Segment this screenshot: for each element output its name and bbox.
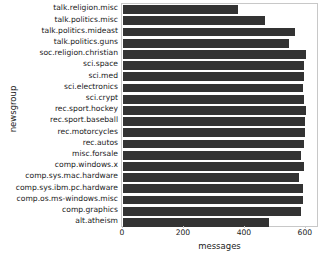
bar <box>123 84 303 93</box>
y-axis-tick-label: talk.politics.mideast <box>3 27 121 35</box>
x-axis-tick-label: 600 <box>298 228 313 237</box>
x-axis-tick-mark <box>305 226 306 228</box>
y-axis-tick-label: comp.sys.mac.hardware <box>3 172 121 180</box>
y-axis-tick-label: talk.politics.misc <box>3 16 121 24</box>
y-axis-tick-label: rec.sport.baseball <box>3 116 121 124</box>
x-axis-tick-labels: 0200400600 <box>0 228 326 242</box>
bar-row <box>122 162 319 171</box>
bar-row <box>122 140 319 149</box>
bar <box>123 106 306 115</box>
bar <box>123 61 304 70</box>
x-axis-tick-label: 400 <box>237 228 252 237</box>
bar <box>123 5 238 14</box>
bar <box>123 16 265 25</box>
x-axis-tick-label: 200 <box>176 228 191 237</box>
y-axis-tick-label: comp.os.ms-windows.misc <box>3 195 121 203</box>
bar-series <box>122 4 317 226</box>
y-axis-tick-labels: talk.religion.misctalk.politics.misctalk… <box>0 3 121 227</box>
bar <box>123 50 306 59</box>
x-axis-title: messages <box>121 241 318 251</box>
bar-row <box>122 95 319 104</box>
bar <box>123 207 301 216</box>
y-axis-tick-label: comp.sys.ibm.pc.hardware <box>3 184 121 192</box>
bar-row <box>122 28 319 37</box>
bar <box>123 218 269 227</box>
bar-row <box>122 173 319 182</box>
y-axis-tick-label: rec.sport.hockey <box>3 105 121 113</box>
bar <box>123 151 301 160</box>
bar <box>123 162 304 171</box>
bar <box>123 184 303 193</box>
bar-row <box>122 61 319 70</box>
bar-row <box>122 128 319 137</box>
y-axis-tick-label: alt.atheism <box>3 217 121 225</box>
bar-row <box>122 16 319 25</box>
bar <box>123 117 305 126</box>
bar <box>123 140 304 149</box>
bar <box>123 28 295 37</box>
x-axis-tick-label: 0 <box>120 228 125 237</box>
x-axis-tick-mark <box>244 226 245 228</box>
bar-row <box>122 218 319 227</box>
bar-row <box>122 106 319 115</box>
y-axis-tick-label: sci.crypt <box>3 94 121 102</box>
bar-row <box>122 117 319 126</box>
bar <box>123 95 304 104</box>
plot-area <box>121 3 318 227</box>
x-axis-tick-mark <box>122 226 123 228</box>
y-axis-tick-label: rec.motorcycles <box>3 128 121 136</box>
bar-row <box>122 196 319 205</box>
y-axis-tick-label: comp.windows.x <box>3 161 121 169</box>
bar <box>123 39 289 48</box>
y-axis-tick-label: sci.electronics <box>3 83 121 91</box>
y-axis-tick-label: comp.graphics <box>3 206 121 214</box>
bar <box>123 72 304 81</box>
y-axis-tick-label: rec.autos <box>3 139 121 147</box>
bar <box>123 128 305 137</box>
y-axis-tick-label: sci.med <box>3 72 121 80</box>
y-axis-tick-label: talk.politics.guns <box>3 38 121 46</box>
bar-row <box>122 5 319 14</box>
bar-row <box>122 207 319 216</box>
bar-row <box>122 84 319 93</box>
bar-row <box>122 184 319 193</box>
bar-row <box>122 50 319 59</box>
bar-row <box>122 39 319 48</box>
y-axis-tick-label: soc.religion.christian <box>3 49 121 57</box>
y-axis-tick-label: misc.forsale <box>3 150 121 158</box>
x-axis-tick-mark <box>183 226 184 228</box>
y-axis-tick-label: talk.religion.misc <box>3 4 121 12</box>
bar <box>123 173 299 182</box>
bar-chart-figure: newsgroup talk.religion.misctalk.politic… <box>0 0 326 261</box>
y-axis-tick-label: sci.space <box>3 60 121 68</box>
bar-row <box>122 151 319 160</box>
bar <box>123 196 303 205</box>
bar-row <box>122 72 319 81</box>
